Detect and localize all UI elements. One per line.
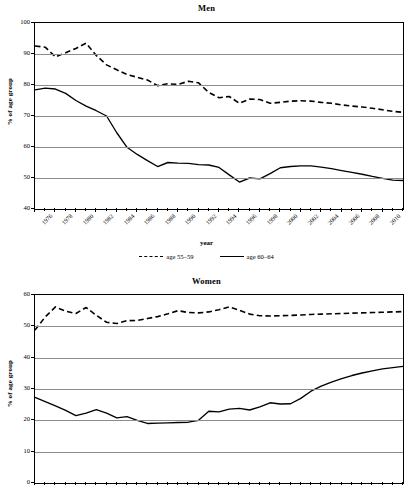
x-tick-mark	[341, 208, 342, 212]
x-tick-mark	[371, 482, 372, 485]
x-tick-label: 2008	[368, 213, 381, 226]
x-tick-mark	[34, 482, 35, 485]
y-tick-label: 100	[20, 19, 30, 26]
x-tick-mark	[187, 208, 188, 211]
x-tick-mark	[34, 208, 35, 212]
legend-men: age 55–59 age 60–64	[0, 253, 413, 260]
gridline	[35, 178, 403, 179]
x-tick-mark	[392, 482, 393, 485]
x-tick-label: 1980	[81, 213, 94, 226]
x-tick-mark	[361, 482, 362, 485]
x-tick-mark	[310, 208, 311, 211]
series-line-age-60-64	[35, 88, 403, 182]
x-tick-mark	[269, 208, 270, 211]
chart-page: Men % of age group 405060708090100 19761…	[0, 0, 413, 500]
series-lines-women	[35, 295, 405, 485]
x-tick-mark	[136, 208, 137, 212]
plot-area-women	[34, 294, 404, 484]
x-tick-mark	[75, 482, 76, 485]
x-tick-mark	[320, 208, 321, 212]
y-tick-mark	[31, 388, 34, 389]
x-tick-mark	[157, 208, 158, 212]
legend-swatch-dashed-icon	[139, 256, 163, 257]
x-tick-mark	[116, 208, 117, 212]
y-tick-mark	[31, 419, 34, 420]
x-tick-mark	[54, 208, 55, 212]
x-tick-mark	[259, 208, 260, 212]
x-tick-label: 2010	[388, 213, 401, 226]
legend-item-age-55-59: age 55–59	[139, 253, 193, 260]
x-tick-mark	[382, 482, 383, 485]
x-tick-mark	[167, 208, 168, 211]
x-tick-mark	[157, 482, 158, 485]
y-tick-label: 80	[24, 81, 31, 88]
y-tick-label: 50	[24, 322, 31, 329]
x-tick-mark	[402, 482, 403, 485]
y-axis-label-men: % of age group	[6, 78, 14, 125]
x-tick-mark	[65, 208, 66, 211]
y-tick-mark	[31, 294, 34, 295]
x-tick-mark	[341, 482, 342, 485]
x-tick-mark	[177, 208, 178, 212]
gridline	[35, 54, 403, 55]
x-tick-mark	[228, 208, 229, 211]
x-tick-mark	[85, 482, 86, 485]
y-tick-label: 30	[24, 385, 31, 392]
y-tick-mark	[31, 146, 34, 147]
x-tick-label: 1994	[225, 213, 238, 226]
series-line-age-60-64	[35, 366, 403, 423]
y-tick-mark	[31, 22, 34, 23]
x-tick-mark	[290, 482, 291, 485]
legend-label-age-60-64: age 60–64	[247, 253, 274, 260]
gridline	[35, 420, 403, 421]
x-tick-mark	[106, 482, 107, 485]
x-tick-mark	[126, 208, 127, 211]
series-lines-men	[35, 23, 405, 211]
x-tick-mark	[238, 208, 239, 212]
x-tick-label: 1992	[204, 213, 217, 226]
y-axis-label-women: % of age group	[6, 360, 14, 407]
y-tick-label: 50	[24, 174, 31, 181]
x-tick-mark	[146, 482, 147, 485]
x-tick-mark	[136, 482, 137, 485]
x-tick-mark	[300, 482, 301, 485]
x-tick-mark	[351, 482, 352, 485]
y-tick-label: 40	[24, 205, 31, 212]
x-tick-mark	[228, 482, 229, 485]
y-tick-label: 10	[24, 447, 31, 454]
x-tick-label: 1990	[184, 213, 197, 226]
x-tick-mark	[85, 208, 86, 211]
x-tick-mark	[320, 482, 321, 485]
y-tick-mark	[31, 451, 34, 452]
legend-item-age-60-64: age 60–64	[220, 253, 274, 260]
x-tick-mark	[44, 208, 45, 211]
gridline	[35, 326, 403, 327]
x-tick-label: 1986	[143, 213, 156, 226]
x-tick-label: 2006	[347, 213, 360, 226]
x-tick-label: 1982	[102, 213, 115, 226]
y-tick-label: 0	[27, 479, 30, 486]
x-tick-label: 1976	[41, 213, 54, 226]
plot-area-men	[34, 22, 404, 210]
gridline	[35, 452, 403, 453]
y-tick-label: 60	[24, 291, 31, 298]
x-tick-mark	[249, 482, 250, 485]
x-tick-mark	[95, 208, 96, 212]
y-tick-label: 40	[24, 353, 31, 360]
x-tick-mark	[218, 482, 219, 485]
y-tick-mark	[31, 177, 34, 178]
y-tick-label: 20	[24, 416, 31, 423]
legend-swatch-solid-icon	[220, 256, 244, 257]
x-tick-mark	[310, 482, 311, 485]
x-tick-mark	[290, 208, 291, 211]
x-tick-mark	[198, 482, 199, 485]
x-tick-mark	[402, 208, 403, 211]
x-tick-mark	[269, 482, 270, 485]
x-tick-mark	[238, 482, 239, 485]
x-tick-mark	[249, 208, 250, 211]
x-tick-mark	[382, 208, 383, 212]
x-tick-label: 1996	[245, 213, 258, 226]
x-tick-mark	[198, 208, 199, 212]
x-tick-mark	[279, 482, 280, 485]
gridline	[35, 85, 403, 86]
